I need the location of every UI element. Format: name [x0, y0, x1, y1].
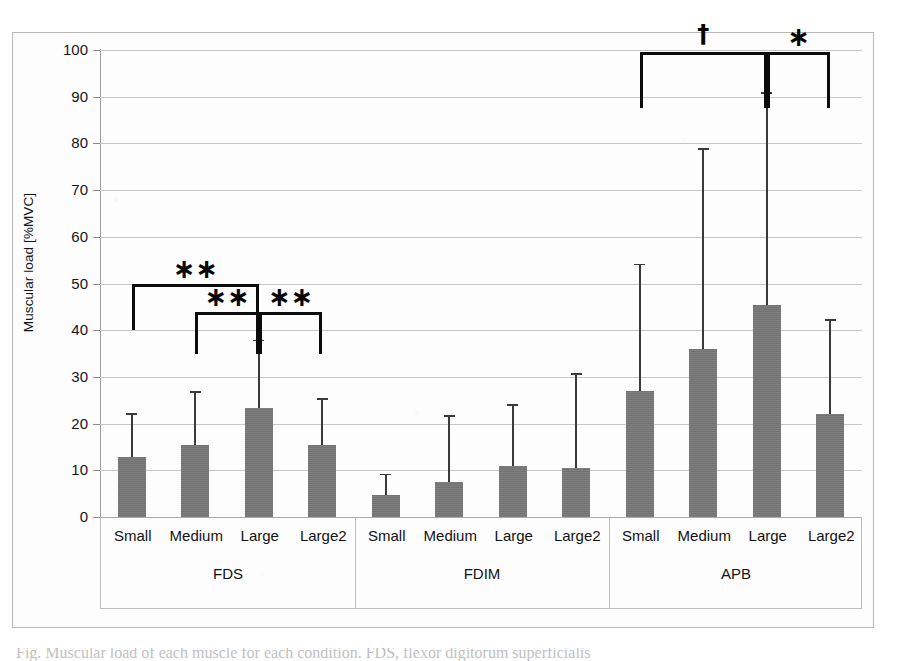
- x-category-label-fds-medium: Medium: [165, 527, 229, 544]
- y-tick-40: [93, 330, 100, 331]
- bar-fdim-medium: [435, 482, 463, 517]
- bar-apb-medium: [689, 349, 717, 517]
- y-tick-label-50: 50: [42, 275, 88, 292]
- error-bar-apb-small: [639, 264, 641, 391]
- x-axis-label-band: SmallMediumLargeLarge2FDSSmallMediumLarg…: [100, 517, 862, 609]
- gridline-80: [100, 143, 862, 144]
- figure-caption: Fig. Muscular load of each muscle for ea…: [16, 648, 881, 661]
- x-group-label-fdim: FDIM: [355, 565, 609, 582]
- y-tick-100: [93, 50, 100, 51]
- error-cap-apb-small: [634, 264, 645, 266]
- x-category-label-fdim-large2: Large2: [546, 527, 610, 544]
- gridline-60: [100, 237, 862, 238]
- x-group-label-fds: FDS: [101, 565, 355, 582]
- y-tick-0: [93, 517, 100, 518]
- x-category-label-fds-large: Large: [228, 527, 292, 544]
- x-category-label-apb-large2: Large2: [800, 527, 864, 544]
- error-cap-apb-large2: [825, 319, 836, 321]
- bar-chart: Muscular load [%MVC] 0102030405060708090…: [0, 0, 897, 661]
- x-category-label-apb-large: Large: [736, 527, 800, 544]
- y-tick-70: [93, 190, 100, 191]
- y-tick-label-0: 0: [42, 508, 88, 525]
- y-tick-label-90: 90: [42, 88, 88, 105]
- significance-mark-fds-large-large2: ∗∗: [229, 283, 353, 310]
- figure-caption-text: Fig. Muscular load of each muscle for ea…: [16, 648, 591, 661]
- error-bar-fdim-medium: [448, 415, 450, 482]
- y-axis-title: Muscular load [%MVC]: [21, 143, 36, 383]
- y-tick-50: [93, 284, 100, 285]
- bar-fds-medium: [181, 445, 209, 517]
- bar-fds-small: [118, 457, 146, 517]
- y-tick-label-70: 70: [42, 181, 88, 198]
- y-tick-90: [93, 97, 100, 98]
- y-tick-label-20: 20: [42, 415, 88, 432]
- bar-apb-large: [753, 305, 781, 517]
- y-tick-10: [93, 470, 100, 471]
- error-cap-apb-medium: [698, 148, 709, 150]
- y-tick-80: [93, 143, 100, 144]
- x-category-label-apb-small: Small: [609, 527, 673, 544]
- x-category-label-fds-large2: Large2: [292, 527, 356, 544]
- error-bar-apb-large2: [829, 319, 831, 414]
- x-category-label-fdim-small: Small: [355, 527, 419, 544]
- error-cap-fdim-small: [380, 474, 391, 476]
- bar-apb-large2: [816, 414, 844, 517]
- bar-apb-small: [626, 391, 654, 517]
- significance-bracket-apb-large-large2: [767, 52, 831, 108]
- y-tick-label-40: 40: [42, 321, 88, 338]
- bar-fdim-large: [499, 466, 527, 517]
- bar-fds-large2: [308, 445, 336, 517]
- y-tick-label-60: 60: [42, 228, 88, 245]
- significance-bracket-fds-medium-large: [195, 312, 259, 354]
- error-cap-fds-large2: [317, 398, 328, 400]
- y-tick-label-80: 80: [42, 134, 88, 151]
- significance-mark-apb-large-large2: ∗: [737, 23, 861, 50]
- y-tick-label-30: 30: [42, 368, 88, 385]
- error-bar-fds-medium: [194, 391, 196, 445]
- gridline-10: [100, 470, 862, 471]
- plot-area: ∗∗∗∗∗∗†∗: [100, 50, 862, 517]
- y-tick-30: [93, 377, 100, 378]
- error-cap-fdim-large: [507, 404, 518, 406]
- x-category-label-fds-small: Small: [101, 527, 165, 544]
- gridline-30: [100, 377, 862, 378]
- bar-fds-large: [245, 408, 273, 517]
- error-bar-fdim-large2: [575, 373, 577, 468]
- gridline-70: [100, 190, 862, 191]
- significance-bracket-apb-small-large: [640, 52, 767, 108]
- y-tick-label-10: 10: [42, 461, 88, 478]
- error-bar-fds-small: [131, 413, 133, 457]
- error-cap-fds-small: [126, 413, 137, 415]
- error-bar-fdim-large: [512, 404, 514, 466]
- error-bar-fds-large2: [321, 398, 323, 444]
- error-cap-fdim-large2: [571, 373, 582, 375]
- error-bar-fdim-small: [385, 474, 387, 495]
- error-cap-fdim-medium: [444, 415, 455, 417]
- significance-bracket-fds-large-large2: [259, 312, 323, 354]
- significance-mark-fds-small-large: ∗∗: [102, 255, 289, 282]
- error-bar-apb-large: [766, 92, 768, 304]
- bar-fdim-large2: [562, 468, 590, 517]
- y-tick-60: [93, 237, 100, 238]
- x-category-label-apb-medium: Medium: [673, 527, 737, 544]
- error-cap-fds-medium: [190, 391, 201, 393]
- group-separator-fdim: [355, 517, 356, 609]
- y-axis-tick-labels: 0102030405060708090100: [38, 50, 88, 517]
- y-tick-20: [93, 424, 100, 425]
- error-bar-apb-medium: [702, 148, 704, 349]
- group-separator-apb: [609, 517, 610, 609]
- bar-fdim-small: [372, 495, 400, 517]
- x-category-label-fdim-large: Large: [482, 527, 546, 544]
- x-group-label-apb: APB: [609, 565, 863, 582]
- y-tick-label-100: 100: [42, 41, 88, 58]
- x-category-label-fdim-medium: Medium: [419, 527, 483, 544]
- gridline-20: [100, 424, 862, 425]
